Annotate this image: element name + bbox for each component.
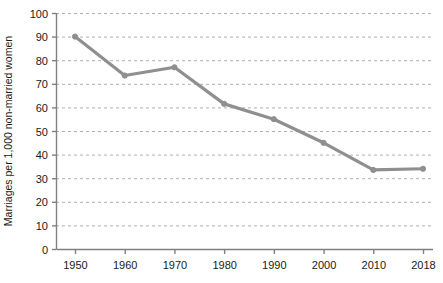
data-point-2018 bbox=[420, 166, 425, 171]
x-tick-label-1990: 1990 bbox=[262, 259, 286, 271]
x-tick-label-1960: 1960 bbox=[113, 259, 137, 271]
data-point-1980 bbox=[222, 101, 227, 106]
chart-canvas: 0102030405060708090100195019601970198019… bbox=[0, 0, 443, 283]
y-tick-label-80: 80 bbox=[36, 55, 48, 67]
x-tick-label-1980: 1980 bbox=[212, 259, 236, 271]
y-axis-ticks: 0102030405060708090100 bbox=[30, 8, 56, 256]
y-tick-label-60: 60 bbox=[36, 102, 48, 114]
y-tick-label-50: 50 bbox=[36, 126, 48, 138]
gridlines bbox=[56, 14, 433, 250]
y-tick-label-0: 0 bbox=[42, 244, 48, 256]
x-tick-label-2010: 2010 bbox=[362, 259, 386, 271]
y-tick-label-20: 20 bbox=[36, 196, 48, 208]
y-tick-label-30: 30 bbox=[36, 173, 48, 185]
x-tick-label-2018: 2018 bbox=[411, 259, 435, 271]
x-tick-label-1950: 1950 bbox=[63, 259, 87, 271]
data-point-1950 bbox=[72, 34, 77, 39]
data-point-1960 bbox=[122, 73, 127, 78]
y-tick-label-90: 90 bbox=[36, 31, 48, 43]
x-axis-ticks: 19501960197019801990200020102018 bbox=[63, 249, 435, 271]
x-tick-label-1970: 1970 bbox=[163, 259, 187, 271]
data-point-2010 bbox=[371, 167, 376, 172]
line-chart: 0102030405060708090100195019601970198019… bbox=[0, 0, 443, 283]
data-point-2000 bbox=[321, 140, 326, 145]
data-point-1990 bbox=[271, 117, 276, 122]
y-tick-label-70: 70 bbox=[36, 78, 48, 90]
x-tick-label-2000: 2000 bbox=[312, 259, 336, 271]
data-markers bbox=[72, 34, 425, 173]
y-tick-label-40: 40 bbox=[36, 149, 48, 161]
data-line-marriages bbox=[75, 37, 423, 170]
data-point-1970 bbox=[172, 65, 177, 70]
y-axis-title: Marriages per 1,000 non-married women bbox=[2, 36, 14, 226]
y-tick-label-100: 100 bbox=[30, 8, 48, 20]
y-tick-label-10: 10 bbox=[36, 220, 48, 232]
